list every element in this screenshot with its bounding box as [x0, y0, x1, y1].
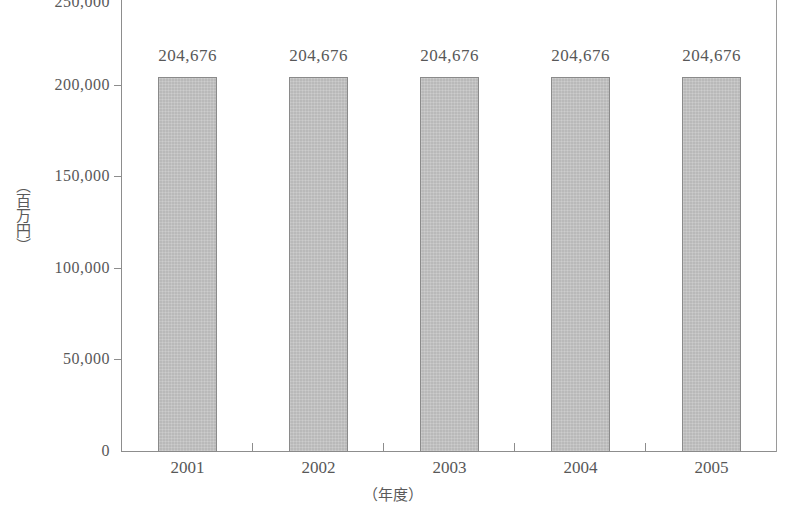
bar-value-label-2002: 204,676 — [274, 46, 363, 65]
plot-right-border — [776, 0, 777, 452]
x-axis-label-2004: 2004 — [536, 458, 625, 477]
bar-value-label-2003: 204,676 — [405, 46, 494, 65]
bar-2001 — [158, 77, 217, 452]
x-axis-label-2003: 2003 — [405, 458, 494, 477]
bar-2004 — [551, 77, 610, 452]
bar-value-label-2005: 204,676 — [667, 46, 756, 65]
y-axis-label-200000: 200,000 — [55, 77, 111, 93]
x-axis-tick-1 — [252, 443, 253, 451]
x-axis-tick-4 — [645, 443, 646, 451]
y-axis-label-100000: 100,000 — [55, 260, 111, 276]
bar-chart: 250,000 200,000 150,000 100,000 50,000 0… — [0, 0, 786, 509]
x-axis-tick-3 — [514, 443, 515, 451]
y-axis-tick-100000 — [114, 268, 122, 269]
y-axis-tick-150000 — [114, 176, 122, 177]
x-axis-label-2002: 2002 — [274, 458, 363, 477]
y-axis-line — [121, 0, 122, 452]
y-axis-label-50000: 50,000 — [63, 351, 110, 367]
bar-2005 — [682, 77, 741, 452]
x-axis-title: （年度） — [0, 487, 786, 504]
y-axis-tick-50000 — [114, 359, 122, 360]
x-axis-label-2001: 2001 — [143, 458, 232, 477]
bar-2002 — [289, 77, 348, 452]
x-axis-label-2005: 2005 — [667, 458, 756, 477]
x-axis-tick-2 — [383, 443, 384, 451]
y-axis-label-250000: 250,000 — [55, 0, 111, 10]
bar-value-label-2004: 204,676 — [536, 46, 625, 65]
bar-value-label-2001: 204,676 — [143, 46, 232, 65]
y-axis-tick-200000 — [114, 85, 122, 86]
y-axis-label-150000: 150,000 — [55, 168, 111, 184]
y-axis-title: （百万円） — [8, 178, 30, 253]
y-axis-label-0: 0 — [102, 443, 111, 459]
bar-2003 — [420, 77, 479, 452]
